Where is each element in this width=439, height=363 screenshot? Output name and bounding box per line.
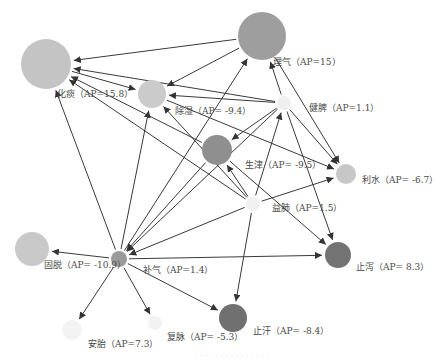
edge-layer xyxy=(52,39,339,319)
node-anpai xyxy=(62,320,82,340)
node-label-lishui: 利水（AP= -6.7） xyxy=(362,175,438,185)
edge-buqi-to-gutuo xyxy=(52,251,109,258)
node-huatan xyxy=(21,39,71,89)
edge-yifei-to-buqi xyxy=(129,207,245,254)
edge-huatan-to-chushi xyxy=(72,71,136,89)
edge-shengjin-to-buqi xyxy=(126,163,205,251)
edge-liqi-to-huatan xyxy=(74,39,236,60)
node-label-yifei: 益肺（AP=1.5） xyxy=(272,203,342,213)
node-label-zhihan: 止汗（AP= -8.4） xyxy=(253,326,329,336)
footer-caption: · · · · · · · · · · · · · · · xyxy=(195,351,269,360)
edge-buqi-to-huatan xyxy=(56,90,116,249)
node-label-fumai: 复脉（AP= -5.3） xyxy=(167,332,243,342)
node-label-buqi: 补气（AP=1.4） xyxy=(143,265,213,275)
node-jianpi xyxy=(277,96,291,110)
edge-yifei-to-jianpi xyxy=(256,113,282,196)
node-zhihan xyxy=(219,304,247,332)
node-lishui xyxy=(336,164,356,184)
node-label-anpai: 安胎（AP=7.3） xyxy=(88,339,158,349)
node-label-chushi: 除湿（AP= -9.4） xyxy=(175,106,251,116)
node-zhixie xyxy=(325,242,351,268)
node-label-gutuo: 固脱（AP= -10.9） xyxy=(44,260,126,270)
node-label-jianpi: 健脾（AP=1.1） xyxy=(309,103,379,113)
edge-liqi-to-chushi xyxy=(167,48,239,86)
node-label-liqi: 理气（AP=15） xyxy=(273,57,341,67)
edge-buqi-to-chushi xyxy=(121,111,149,250)
edge-jianpi-to-lishui xyxy=(290,110,338,164)
edge-buqi-to-anpai xyxy=(79,267,113,319)
node-yifei xyxy=(246,197,260,211)
edge-jianpi-to-zhixie xyxy=(287,112,333,240)
node-label-shengjin: 生津（AP= -9.5） xyxy=(245,160,321,170)
edge-buqi-to-zhixie xyxy=(129,255,322,258)
node-fumai xyxy=(148,316,162,330)
node-shengjin xyxy=(202,135,232,165)
node-label-huatan: 化痰（AP=15.8） xyxy=(57,89,133,99)
edge-jianpi-to-buqi xyxy=(127,109,278,251)
node-chushi xyxy=(138,80,166,108)
node-liqi xyxy=(238,12,286,60)
node-label-zhixie: 止泻（AP= 8.3） xyxy=(356,262,429,272)
